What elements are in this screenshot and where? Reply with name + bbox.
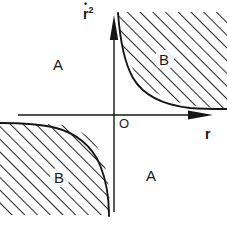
y-axis-arrowhead: [110, 15, 118, 40]
plot-canvas: [0, 0, 227, 227]
x-axis-label: r: [205, 127, 210, 141]
y-axis-label-variable: r: [83, 7, 88, 21]
phase-plane-figure: r2 r O A B B A: [0, 0, 227, 227]
x-axis-arrowhead: [188, 111, 213, 120]
y-axis-label: r2: [83, 6, 93, 21]
region-label-b-lower-left: B: [50, 168, 69, 187]
region-label-a-lower-right: A: [146, 168, 157, 183]
region-label-a-upper-left: A: [53, 57, 64, 72]
y-axis-label-exponent: 2: [88, 5, 93, 15]
region-label-b-upper-right: B: [155, 50, 174, 69]
origin-label: O: [119, 117, 129, 130]
